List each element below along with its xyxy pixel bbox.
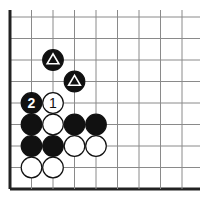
- black-stone: [86, 114, 107, 135]
- black-stone-disc: [21, 114, 42, 135]
- white-stone-disc: [64, 136, 85, 157]
- move-number-label: 1: [49, 95, 57, 111]
- black-stone: [43, 136, 64, 157]
- stones-layer: 21: [21, 50, 106, 178]
- black-stone-disc: [43, 136, 64, 157]
- white-stone-disc: [21, 157, 42, 178]
- white-stone: [43, 157, 64, 178]
- white-stone: [21, 157, 42, 178]
- black-stone-disc: [64, 114, 85, 135]
- white-stone-disc: [43, 114, 64, 135]
- black-stone-disc: [21, 136, 42, 157]
- black-stone-disc: [86, 114, 107, 135]
- white-stone-disc: [86, 136, 107, 157]
- black-stone: [21, 136, 42, 157]
- black-stone: [43, 50, 64, 71]
- white-stone: 1: [43, 93, 64, 114]
- go-board: 21: [0, 0, 209, 198]
- black-stone: 2: [21, 93, 42, 114]
- black-stone: [64, 114, 85, 135]
- move-number-label: 2: [28, 95, 36, 111]
- white-stone: [43, 114, 64, 135]
- black-stone: [21, 114, 42, 135]
- white-stone: [86, 136, 107, 157]
- black-stone: [64, 71, 85, 92]
- white-stone-disc: [43, 157, 64, 178]
- white-stone: [64, 136, 85, 157]
